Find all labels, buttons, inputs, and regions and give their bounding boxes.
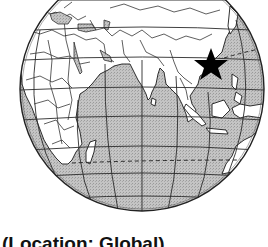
land-sri-lanka: [151, 98, 156, 106]
map-caption: (Location: Global): [0, 234, 268, 247]
globe-map: [0, 0, 268, 247]
